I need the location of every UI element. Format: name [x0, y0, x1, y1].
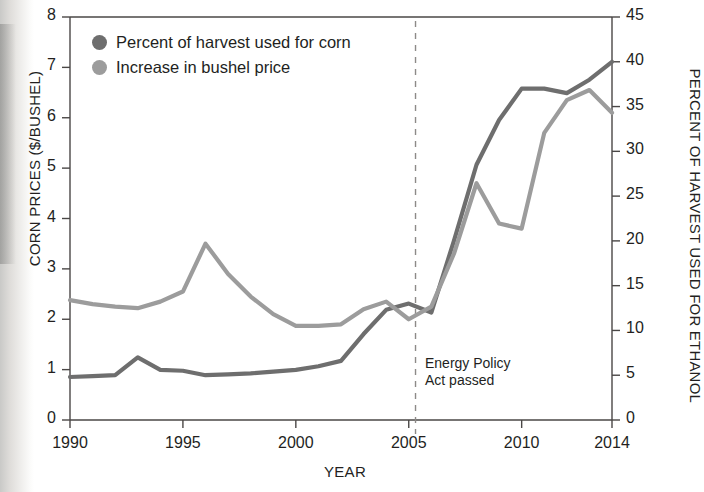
legend-marker-dark	[92, 35, 107, 50]
y-tick-label-left: 3	[22, 258, 56, 276]
y-tick-label-left: 4	[22, 208, 56, 226]
y-tick-label-right: 10	[626, 319, 666, 337]
x-tick-label: 2005	[374, 434, 444, 452]
legend-label-price: Increase in bushel price	[116, 58, 290, 77]
annotation-energy-policy-act: Energy Policy Act passed	[425, 355, 511, 389]
y-tick-label-right: 15	[626, 275, 666, 293]
y-tick-label-right: 30	[626, 140, 666, 158]
y-tick-label-left: 1	[22, 359, 56, 377]
y-tick-label-left: 5	[22, 157, 56, 175]
y-tick-label-right: 45	[626, 6, 666, 24]
x-tick-label: 2014	[577, 434, 647, 452]
y-axis-label-right: PERCENT OF HARVEST USED FOR ETHANOL	[687, 69, 704, 369]
y-tick-label-right: 40	[626, 51, 666, 69]
y-tick-label-right: 35	[626, 96, 666, 114]
x-tick-label: 1990	[35, 434, 105, 452]
series-line-price	[70, 90, 612, 326]
y-tick-label-right: 25	[626, 185, 666, 203]
y-tick-label-right: 0	[626, 409, 666, 427]
y-tick-label-left: 2	[22, 308, 56, 326]
legend-item-harvest: Percent of harvest used for corn	[92, 30, 351, 55]
legend-label-harvest: Percent of harvest used for corn	[116, 33, 351, 52]
legend-item-price: Increase in bushel price	[92, 55, 351, 80]
y-tick-label-left: 8	[22, 6, 56, 24]
y-tick-label-left: 6	[22, 107, 56, 125]
y-tick-label-left: 0	[22, 409, 56, 427]
x-tick-label: 2010	[487, 434, 557, 452]
series-line-harvest	[70, 62, 612, 377]
legend-marker-light	[92, 60, 107, 75]
x-axis-label: YEAR	[0, 463, 690, 480]
y-tick-label-left: 7	[22, 56, 56, 74]
x-tick-label: 2000	[261, 434, 331, 452]
chart-legend: Percent of harvest used for corn Increas…	[92, 30, 351, 80]
y-tick-label-right: 5	[626, 364, 666, 382]
x-tick-label: 1995	[148, 434, 218, 452]
y-tick-label-right: 20	[626, 230, 666, 248]
